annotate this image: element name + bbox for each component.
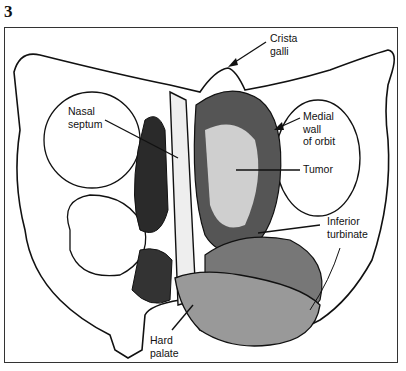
anatomical-illustration [0, 0, 406, 371]
label-inferior-turbinate: Inferior turbinate [327, 215, 368, 240]
label-crista-galli: Crista galli [270, 32, 297, 57]
label-medial-wall-of-orbit: Medial wall of orbit [303, 110, 335, 148]
maxillary-sinus [68, 195, 146, 276]
label-hard-palate: Hard palate [150, 334, 179, 359]
label-nasal-septum: Nasal septum [68, 105, 102, 130]
label-tumor: Tumor [303, 163, 333, 176]
